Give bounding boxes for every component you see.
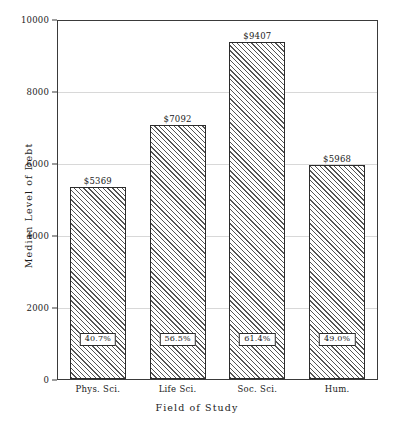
bar-percent-label: 61.4% [239,333,275,346]
bar-value-label: $5968 [323,154,351,164]
bar-percent-label: 56.5% [159,333,195,346]
bar[interactable]: $709256.5% [150,125,206,379]
bar-slot: $596849.0% [297,21,377,379]
y-axis-tick-label: 10000 [21,15,49,25]
bar-value-label: $5369 [84,176,112,186]
x-axis-tick-label: Life Sci. [138,384,218,394]
x-axis: Phys. Sci.Life Sci.Soc. Sci.Hum. [58,384,377,394]
x-axis-tick-label: Hum. [297,384,377,394]
bar-slot: $940761.4% [218,21,298,379]
bar-value-label: $7092 [164,114,192,124]
bar[interactable]: $940761.4% [229,42,285,379]
bar[interactable]: $536940.7% [70,187,126,379]
bar-slot: $709256.5% [138,21,218,379]
x-axis-tick-label: Soc. Sci. [218,384,298,394]
x-axis-title: Field of Study [0,402,394,413]
x-axis-tick-label: Phys. Sci. [58,384,138,394]
y-axis-tick-label: 0 [43,375,49,385]
y-axis-tick-label: 8000 [27,87,49,97]
y-axis: 0200040006000800010000 [0,20,57,380]
bar-slot: $536940.7% [58,21,138,379]
bar-percent-label: 49.0% [319,333,355,346]
bar[interactable]: $596849.0% [309,165,365,379]
y-axis-tick-label: 6000 [27,159,49,169]
y-axis-tick-label: 2000 [27,303,49,313]
y-axis-tick-label: 4000 [27,231,49,241]
bar-chart-figure: Median Level of Debt 0200040006000800010… [0,0,394,422]
bar-series: $536940.7%$709256.5%$940761.4%$596849.0% [58,21,377,379]
bar-value-label: $9407 [243,31,271,41]
bar-percent-label: 40.7% [80,333,116,346]
